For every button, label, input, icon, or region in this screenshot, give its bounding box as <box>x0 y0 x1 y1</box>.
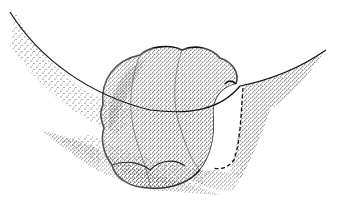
stipple-illustration <box>0 0 342 203</box>
illustration-canvas <box>0 0 342 203</box>
